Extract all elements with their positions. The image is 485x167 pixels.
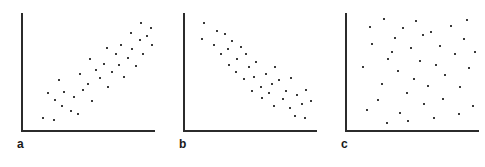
data-point [127,57,129,59]
data-point [387,58,389,60]
panel-a-label: a [17,137,24,151]
data-point [369,26,371,28]
data-point [243,78,245,80]
data-point [248,66,250,68]
data-point [459,86,461,88]
panel-c: c [324,0,485,167]
data-point [274,66,276,68]
panel-c-label: c [341,137,348,151]
data-point [260,86,262,88]
panel-a-plot-area [22,13,155,131]
data-point [463,38,465,40]
data-point [439,45,441,47]
data-point [285,90,287,92]
data-point [399,112,401,114]
data-point [433,117,435,119]
data-point [54,99,56,101]
panel-b-plot-area [184,13,317,131]
data-point [402,27,404,29]
data-point [73,96,75,98]
data-point [115,53,117,55]
data-point [42,117,44,119]
data-point [47,92,49,94]
data-point [273,105,275,107]
data-point [366,109,368,111]
data-point [310,100,312,102]
data-point [278,79,280,81]
data-point [70,110,72,112]
data-point [146,35,148,37]
panel-b-label: b [179,137,186,151]
data-point [444,74,446,76]
data-point [240,46,242,48]
data-point [289,107,291,109]
data-point [53,119,55,121]
data-point [107,86,109,88]
data-point [77,113,79,115]
data-point [99,77,101,79]
data-point [236,58,238,60]
data-point [106,47,108,49]
data-point [407,120,409,122]
data-point [442,98,444,100]
data-point [82,89,84,91]
data-point [89,58,91,60]
data-point [224,33,226,35]
data-point [220,53,222,55]
data-point [61,105,63,107]
data-point [386,122,388,124]
data-point [251,90,253,92]
data-point [216,30,218,32]
data-point [130,32,132,34]
data-point [466,19,468,21]
data-point [95,69,97,71]
panel-c-plot-area [346,13,479,131]
data-point [381,83,383,85]
data-point [271,83,273,85]
data-point [142,53,144,55]
data-point [201,38,203,40]
data-point [140,22,142,24]
data-point [362,66,364,68]
data-point [261,97,263,99]
data-point [304,117,306,119]
data-point [139,39,141,41]
data-point [419,60,421,62]
data-point [227,48,229,50]
data-point [118,64,120,66]
data-point [296,94,298,96]
data-point [383,18,385,20]
data-point [305,89,307,91]
data-point [79,73,81,75]
data-point [394,37,396,39]
panel-b: b [162,0,323,167]
data-point [123,76,125,78]
data-point [435,64,437,66]
panel-a: a [0,0,161,167]
data-point [58,79,60,81]
data-point [427,85,429,87]
data-point [213,44,215,46]
data-point [103,63,105,65]
data-point [63,91,65,93]
data-point [255,61,257,63]
data-point [253,76,255,78]
data-point [406,92,408,94]
data-point [235,71,237,73]
data-point [391,51,393,53]
data-point [413,78,415,80]
data-point [450,25,452,27]
data-point [468,67,470,69]
data-point [294,115,296,117]
data-point [87,83,89,85]
data-point [151,44,153,46]
data-point [135,65,137,67]
data-point [423,103,425,105]
data-point [301,103,303,105]
data-point [430,31,432,33]
data-point [150,27,152,29]
data-point [454,53,456,55]
data-point [228,64,230,66]
data-point [410,47,412,49]
data-point [120,44,122,46]
